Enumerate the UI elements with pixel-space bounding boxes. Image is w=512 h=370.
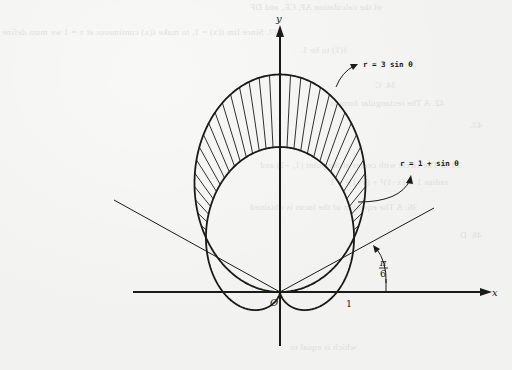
- hatch-line: [269, 75, 273, 147]
- hatch-line: [314, 94, 330, 157]
- hatch-line: [203, 135, 224, 178]
- hatch-line: [199, 147, 220, 184]
- hatch-line: [195, 187, 211, 207]
- hatch-line: [231, 94, 247, 157]
- hatch-line: [249, 82, 259, 151]
- origin-label: O: [270, 297, 278, 308]
- ray-5pi-over-6: [114, 200, 280, 292]
- x-axis-arrow-icon: [480, 288, 492, 296]
- hatch-line: [336, 135, 357, 178]
- hatch-line: [240, 87, 253, 153]
- x-axis-label: x: [492, 287, 498, 298]
- cardioid-label: r = 1 + sin θ: [400, 159, 459, 168]
- y-axis-arrow-icon: [276, 25, 284, 37]
- angle-label-numerator: π: [379, 257, 387, 268]
- hatch-line: [320, 103, 338, 161]
- polar-diagram: r = 3 sin θ r = 1 + sin θ π 6 y x O 1: [0, 0, 512, 370]
- hatch-line: [222, 103, 240, 161]
- hatch-line: [209, 123, 230, 172]
- hatch-line: [307, 87, 320, 153]
- hatch-line: [294, 78, 301, 149]
- circle-label: r = 3 sin θ: [363, 60, 413, 69]
- hatch-line: [215, 113, 234, 167]
- hatch-line: [349, 187, 365, 207]
- hatch-line: [340, 147, 361, 184]
- y-axis-label: y: [275, 13, 282, 24]
- hatch-line: [301, 82, 311, 151]
- hatch-line: [259, 78, 266, 149]
- hatch-line: [287, 75, 291, 147]
- hatch-line: [344, 160, 364, 192]
- hatch-line: [325, 113, 344, 167]
- ray-pi-over-6: [280, 208, 434, 292]
- circle-label-leader: [336, 66, 354, 87]
- x-tick-label-1: 1: [346, 298, 352, 309]
- hatch-line: [331, 123, 352, 172]
- cardioid-label-arrow-icon: [406, 175, 413, 184]
- angle-label-denominator: 6: [380, 268, 386, 279]
- hatch-line: [347, 173, 365, 199]
- hatch-line: [196, 160, 216, 192]
- hatch-line: [195, 173, 213, 199]
- axes: [133, 25, 492, 346]
